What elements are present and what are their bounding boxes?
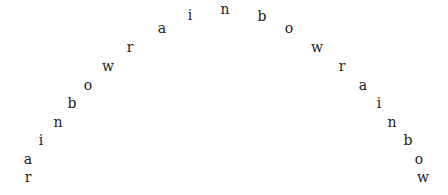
arc-letter: r bbox=[25, 170, 32, 184]
arc-letter: a bbox=[158, 21, 166, 35]
arc-letter: n bbox=[53, 115, 62, 129]
arc-text-canvas: rainbowrainbowrainbow bbox=[0, 0, 448, 195]
arc-letter: n bbox=[220, 2, 229, 16]
arc-letter: r bbox=[127, 40, 134, 54]
arc-letter: o bbox=[415, 152, 423, 166]
arc-letter: w bbox=[417, 170, 429, 184]
arc-letter: w bbox=[311, 40, 323, 54]
arc-letter: o bbox=[285, 21, 293, 35]
arc-letter: b bbox=[68, 96, 77, 110]
arc-letter: a bbox=[359, 78, 367, 92]
arc-letter: w bbox=[102, 59, 114, 73]
arc-letter: b bbox=[404, 133, 413, 147]
arc-letter: b bbox=[258, 9, 267, 23]
arc-letter: i bbox=[188, 8, 192, 22]
arc-letter: r bbox=[339, 59, 346, 73]
arc-letter: n bbox=[387, 115, 396, 129]
arc-letter: i bbox=[39, 133, 43, 147]
arc-letter: o bbox=[84, 78, 92, 92]
arc-letter: a bbox=[24, 152, 32, 166]
arc-letter: i bbox=[377, 96, 381, 110]
